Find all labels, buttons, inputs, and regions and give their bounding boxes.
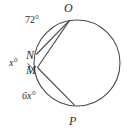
angle-measure-label-x: x° [9,58,17,68]
geometry-figure: O P N M 72° x° 6x° [0,0,130,133]
chord-n-o [36,21,69,55]
chord-vertex-p [37,68,74,106]
point-label-o: O [64,2,73,14]
point-label-p: P [69,115,76,127]
arc-measure-label-72: 72° [25,15,39,25]
circle-outline [34,20,120,106]
diagram-canvas [0,0,130,133]
point-label-m: M [26,64,36,76]
arc-measure-label-6x: 6x° [22,91,35,101]
point-label-n: N [26,49,34,61]
